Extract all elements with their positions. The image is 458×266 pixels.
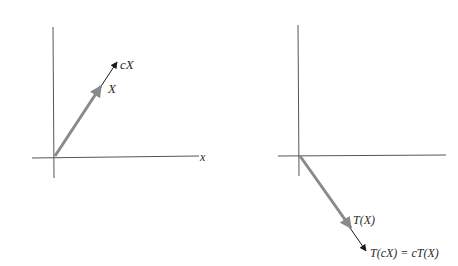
label-tcx: T(cX) = cT(X) [370,246,439,260]
left-x-axis [32,156,199,158]
vector-x-arrow [55,86,101,156]
label-cx: cX [120,57,135,72]
left-y-axis [53,27,54,178]
label-x-axis: x [199,150,206,164]
label-tx: T(X) [353,213,375,227]
left-panel: cX X x [32,27,206,178]
label-x-vector: X [107,81,117,96]
right-x-axis [278,155,446,156]
right-y-axis [298,25,299,176]
vector-tx-arrow [300,156,351,228]
linearity-diagram: cX X x T(X) T(cX) = cT(X) [0,0,458,266]
right-panel: T(X) T(cX) = cT(X) [278,25,446,260]
